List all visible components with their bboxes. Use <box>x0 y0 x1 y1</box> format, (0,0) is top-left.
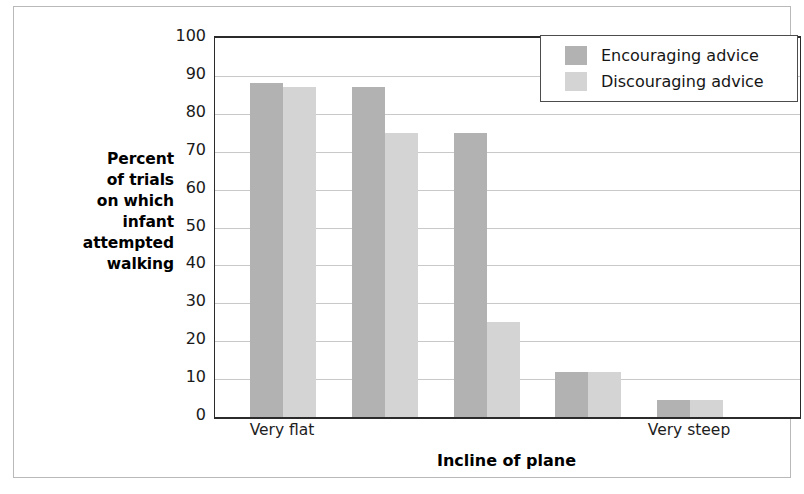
y-axis-title-line: attempted <box>44 233 174 254</box>
y-axis-tick-label: 50 <box>162 218 206 234</box>
legend-item-encouraging: Encouraging advice <box>541 42 797 68</box>
x-axis-category-label: Very steep <box>648 421 730 439</box>
y-axis-tick-label: 0 <box>162 407 206 423</box>
x-axis-category-label: Very flat <box>250 421 315 439</box>
legend-item-discouraging: Discouraging advice <box>541 68 797 94</box>
y-axis-tick-label: 80 <box>162 104 206 120</box>
y-axis-tick-label: 100 <box>162 28 206 44</box>
x-axis-category-labels: Very flatVery steep <box>214 421 799 445</box>
plot-area: Encouraging advice Discouraging advice <box>214 36 801 419</box>
bar <box>454 133 487 417</box>
legend-swatch-icon <box>565 72 587 91</box>
y-axis-title-line: on which <box>44 191 174 212</box>
y-axis-tick-label: 30 <box>162 293 206 309</box>
bar <box>657 400 690 417</box>
bar <box>385 133 418 417</box>
legend: Encouraging advice Discouraging advice <box>540 35 798 102</box>
y-axis-title-line: of trials <box>44 170 174 191</box>
bar <box>283 87 316 417</box>
y-axis-title: Percent of trials on which infant attemp… <box>44 149 174 275</box>
bar <box>487 322 520 417</box>
legend-swatch-icon <box>565 46 587 65</box>
y-axis-tick-labels: 0102030405060708090100 <box>162 36 206 415</box>
legend-item-label: Encouraging advice <box>601 46 759 65</box>
y-axis-tick-label: 70 <box>162 142 206 158</box>
legend-item-label: Discouraging advice <box>601 72 764 91</box>
bar <box>250 83 283 417</box>
bar <box>352 87 385 417</box>
y-axis-tick-label: 90 <box>162 66 206 82</box>
y-axis-title-line: walking <box>44 254 174 275</box>
y-axis-title-line: infant <box>44 212 174 233</box>
y-axis-tick-label: 60 <box>162 180 206 196</box>
y-axis-tick-label: 10 <box>162 369 206 385</box>
bar <box>555 372 588 417</box>
bar <box>690 400 723 417</box>
y-axis-title-line: Percent <box>44 149 174 170</box>
y-axis-tick-label: 20 <box>162 331 206 347</box>
x-axis-title: Incline of plane <box>214 451 799 470</box>
y-axis-tick-label: 40 <box>162 255 206 271</box>
figure-frame: Percent of trials on which infant attemp… <box>13 6 791 478</box>
bar <box>588 372 621 417</box>
